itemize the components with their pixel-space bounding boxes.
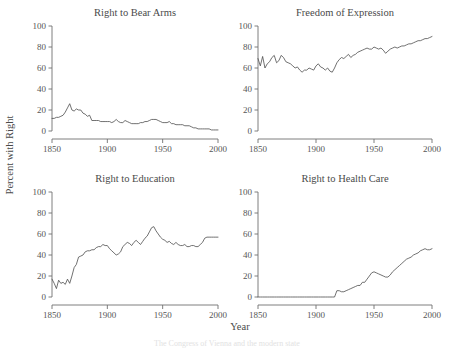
y-axis-title: Percent with Right [4, 116, 15, 195]
y-tick-label: 20 [37, 271, 47, 281]
y-tick-label: 60 [243, 63, 253, 73]
y-tick-label: 40 [243, 250, 253, 260]
y-tick-label: 60 [243, 229, 253, 239]
y-tick-label: 100 [33, 187, 47, 197]
y-tick-label: 80 [37, 208, 47, 218]
panel-title: Freedom of Expression [296, 7, 395, 18]
y-tick-label: 100 [239, 187, 253, 197]
x-tick-label: 1950 [365, 310, 384, 320]
series-line [52, 227, 218, 289]
x-axis-title: Year [230, 321, 250, 332]
y-tick-label: 40 [37, 250, 47, 260]
x-tick-label: 1950 [154, 310, 173, 320]
panel-group: Right to Bear Arms0204060801001850190019… [33, 7, 442, 320]
x-tick-label: 1950 [154, 144, 173, 154]
y-tick-label: 100 [239, 21, 253, 31]
y-tick-label: 80 [243, 208, 253, 218]
x-tick-label: 1900 [98, 144, 117, 154]
y-tick-label: 80 [243, 42, 253, 52]
cut-off-caption: The Congress of Vienna and the modern st… [154, 339, 300, 348]
x-tick-label: 1850 [43, 144, 62, 154]
panel-title: Right to Bear Arms [94, 7, 176, 18]
four-panel-figure: Percent with Right Year The Congress of … [0, 0, 455, 349]
x-tick-label: 1850 [43, 310, 62, 320]
series-line [258, 37, 432, 73]
y-tick-label: 20 [243, 105, 253, 115]
y-tick-label: 60 [37, 63, 47, 73]
series-line [258, 249, 432, 297]
x-tick-label: 1950 [365, 144, 384, 154]
y-tick-label: 20 [243, 271, 253, 281]
panel-1: Right to Bear Arms0204060801001850190019… [33, 7, 228, 154]
x-tick-label: 1900 [307, 144, 326, 154]
x-tick-label: 1900 [98, 310, 117, 320]
x-tick-label: 2000 [423, 310, 442, 320]
y-tick-label: 0 [248, 126, 253, 136]
y-tick-label: 0 [248, 292, 253, 302]
x-tick-label: 2000 [209, 310, 228, 320]
x-tick-label: 1900 [307, 310, 326, 320]
chart-svg: Percent with Right Year The Congress of … [0, 0, 455, 349]
y-tick-label: 40 [37, 84, 47, 94]
panel-3: Right to Education0204060801001850190019… [33, 173, 228, 320]
y-tick-label: 20 [37, 105, 47, 115]
x-tick-label: 2000 [209, 144, 228, 154]
y-tick-label: 60 [37, 229, 47, 239]
y-tick-label: 0 [42, 126, 47, 136]
panel-title: Right to Health Care [301, 173, 389, 184]
series-line [52, 104, 218, 130]
y-tick-label: 40 [243, 84, 253, 94]
x-tick-label: 1850 [249, 144, 268, 154]
y-tick-label: 0 [42, 292, 47, 302]
y-tick-label: 80 [37, 42, 47, 52]
panel-4: Right to Health Care02040608010018501900… [239, 173, 442, 320]
panel-title: Right to Education [95, 173, 175, 184]
x-tick-label: 2000 [423, 144, 442, 154]
panel-2: Freedom of Expression0204060801001850190… [239, 7, 442, 154]
y-tick-label: 100 [33, 21, 47, 31]
x-tick-label: 1850 [249, 310, 268, 320]
